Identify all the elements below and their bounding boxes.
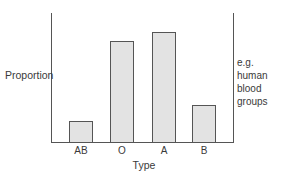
right-border (233, 13, 234, 143)
tick-label-a: A (149, 145, 179, 156)
note-line: blood (237, 82, 287, 95)
tick-label-b: B (189, 145, 219, 156)
note-line: e.g. human (237, 56, 287, 82)
bar-o (110, 41, 134, 143)
chart: AB O A B Proportion Type e.g. human bloo… (0, 0, 287, 185)
bar-b (192, 105, 216, 143)
tick-label-o: O (107, 145, 137, 156)
y-axis-label: Proportion (5, 69, 53, 81)
x-axis-label: Type (129, 159, 159, 171)
tick-label-ab: AB (66, 145, 96, 156)
bar-ab (69, 121, 93, 143)
annotation-note: e.g. human blood groups (237, 56, 287, 108)
note-line: groups (237, 95, 287, 108)
bar-a (152, 32, 176, 143)
